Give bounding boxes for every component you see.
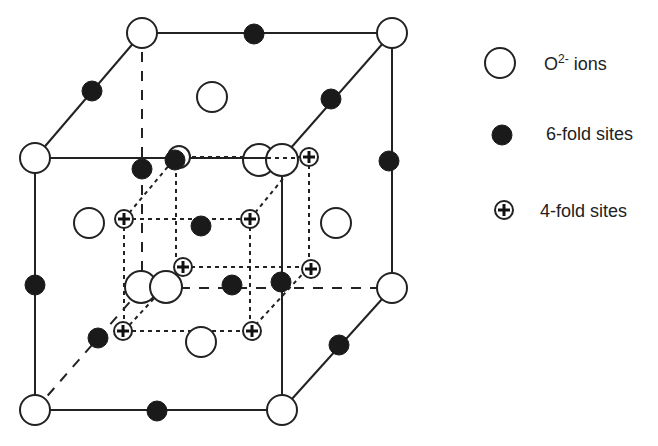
legend-o-ion-label: O2- ions	[544, 52, 607, 74]
six-fold-site	[147, 401, 167, 421]
six-fold-site	[132, 159, 152, 179]
o-ion-inner-left-b	[150, 271, 182, 303]
legend-six-fold-icon	[492, 125, 512, 145]
o-ion-front-top-b	[266, 144, 298, 176]
o-ion-corner-front-bottom-left	[20, 395, 50, 425]
o-ion-corner-back-top-left	[127, 18, 157, 48]
four-fold-site	[174, 258, 192, 276]
o-ion-face-top	[197, 82, 227, 112]
spinel-crystal-structure-diagram: O2- ions 6-fold sites 4-fold sites	[0, 0, 658, 446]
four-fold-site	[302, 260, 320, 278]
four-fold-site	[241, 210, 259, 228]
legend-four-fold-icon	[495, 201, 513, 219]
legend-six-fold-label: 6-fold sites	[546, 124, 633, 144]
legend-four-fold-label: 4-fold sites	[540, 201, 627, 221]
four-fold-site	[300, 148, 318, 166]
o-ion-corner-front-bottom-right	[267, 395, 297, 425]
o-ion-corner-back-top-right	[377, 18, 407, 48]
six-fold-site	[244, 24, 264, 44]
legend: O2- ions 6-fold sites 4-fold sites	[485, 48, 633, 221]
six-fold-site	[222, 275, 242, 295]
six-fold-site	[329, 335, 349, 355]
o-ion-corner-front-top-left	[20, 143, 50, 173]
six-fold-site	[191, 216, 211, 236]
four-fold-site	[115, 210, 133, 228]
six-fold-site	[321, 89, 341, 109]
four-fold-site	[243, 322, 261, 340]
six-fold-site	[271, 272, 291, 292]
six-fold-site	[165, 150, 185, 170]
six-fold-site	[379, 151, 399, 171]
o-ion-face-left	[74, 208, 104, 238]
o-ion-face-bottom	[186, 327, 216, 357]
six-fold-site	[88, 328, 108, 348]
six-fold-site	[25, 275, 45, 295]
legend-o-ion-icon	[485, 48, 515, 78]
four-fold-site	[114, 322, 132, 340]
six-fold-site	[82, 81, 102, 101]
oxygen-ions	[20, 18, 407, 425]
o-ion-face-right	[321, 208, 351, 238]
o-ion-corner-back-bottom-right	[377, 273, 407, 303]
